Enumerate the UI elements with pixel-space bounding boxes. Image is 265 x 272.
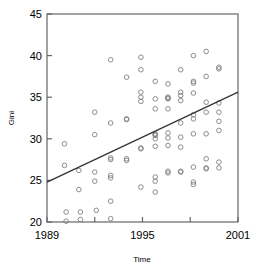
data-point-marker [204,132,209,137]
scatter-data-points [62,49,221,223]
data-point-marker [92,132,97,137]
data-point-marker [153,79,158,84]
y-axis-label: Gini [7,111,16,125]
data-point-marker [178,67,183,72]
data-point-marker [108,216,113,221]
data-point-marker [139,185,144,190]
y-tick-label: 40 [30,50,42,62]
data-point-marker [191,132,196,137]
data-point-marker [92,170,97,175]
x-axis-tick-labels: 198919952001 [35,229,250,241]
data-point-marker [204,74,209,79]
data-point-marker [217,128,222,133]
y-tick-label: 35 [30,91,42,103]
y-axis-tick-labels: 202530354045 [30,8,42,228]
data-point-marker [204,49,209,54]
data-point-marker [92,110,97,115]
data-point-marker [166,131,171,136]
data-point-marker [92,179,97,184]
y-tick-label: 45 [30,8,42,20]
plot-border [47,14,238,222]
data-point-marker [139,90,144,95]
data-point-marker [204,110,209,115]
data-point-marker [139,67,144,72]
y-tick-label: 20 [30,216,42,228]
data-point-marker [166,143,171,148]
y-tick-label: 30 [30,133,42,145]
data-point-marker [139,55,144,60]
data-point-marker [153,190,158,195]
data-point-marker [108,57,113,62]
data-point-marker [153,144,158,149]
data-point-marker [166,136,171,141]
data-point-marker [204,100,209,105]
data-point-marker [217,160,222,165]
data-point-marker [166,107,171,112]
data-point-marker [191,53,196,58]
plot-frame [47,14,238,222]
data-point-marker [94,208,99,213]
data-point-marker [178,145,183,150]
data-point-marker [166,82,171,87]
data-point-marker [178,121,183,126]
data-point-marker [77,168,82,173]
data-point-marker [108,121,113,126]
data-point-marker [108,199,113,204]
data-point-marker [62,163,67,168]
y-tick-label: 25 [30,174,42,186]
data-point-marker [124,75,129,80]
data-point-marker [62,141,67,146]
x-axis-label: Time [133,255,151,264]
data-point-marker [64,210,69,215]
data-point-marker [78,217,83,222]
data-point-marker [191,165,196,170]
data-point-marker [78,210,83,215]
x-tick-label: 2001 [226,229,250,241]
x-axis-ticks [47,217,238,222]
data-point-marker [77,187,82,192]
x-tick-label: 1989 [35,229,59,241]
x-tick-label: 1995 [130,229,154,241]
data-point-marker [153,107,158,112]
data-point-marker [153,97,158,102]
scatter-plot-figure: 202530354045 198919952001 Gini Time [0,0,265,272]
data-point-marker [178,98,183,103]
data-point-marker [64,219,69,224]
y-axis-ticks [47,14,52,222]
data-point-marker [217,119,222,124]
data-point-marker [217,166,222,171]
data-point-marker [204,156,209,161]
data-point-marker [191,91,196,96]
regression-trend-line [47,92,238,182]
plot-canvas: 202530354045 198919952001 Gini Time [0,0,265,272]
data-point-marker [178,135,183,140]
data-point-marker [217,110,222,115]
data-point-marker [178,93,183,98]
